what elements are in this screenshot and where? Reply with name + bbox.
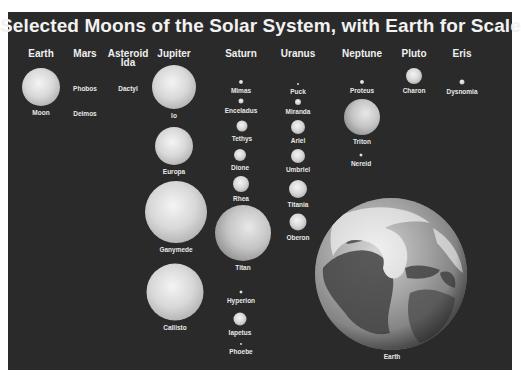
moon-mimas xyxy=(239,80,243,84)
moon-tethys xyxy=(237,121,248,132)
moon-titan xyxy=(215,205,271,261)
moon-puck xyxy=(297,83,299,85)
moon-label-triton: Triton xyxy=(353,138,371,145)
moon-label-phobos: Phobos xyxy=(73,85,97,92)
moon-label-tethys: Tethys xyxy=(232,135,252,142)
planet-header-earth: Earth xyxy=(28,49,54,59)
moon-label-mimas: Mimas xyxy=(231,87,251,94)
moon-dione xyxy=(234,149,246,161)
moon-label-titan: Titan xyxy=(235,264,250,271)
moon-label-proteus: Proteus xyxy=(350,87,374,94)
moon-europa xyxy=(155,127,193,165)
moon-dysnomia xyxy=(460,80,465,85)
earth-label: Earth xyxy=(384,353,401,360)
moon-iapetus xyxy=(234,313,247,326)
moon-triton xyxy=(344,99,380,135)
moon-label-rhea: Rhea xyxy=(233,195,249,202)
moon-label-ariel: Ariel xyxy=(291,137,305,144)
moon-phoebe xyxy=(240,343,242,345)
moon-label-callisto: Callisto xyxy=(163,324,186,331)
planet-header-neptune: Neptune xyxy=(342,49,382,59)
moon-label-iapetus: Iapetus xyxy=(229,329,252,336)
moon-oberon xyxy=(290,214,307,231)
earth-surface-icon xyxy=(315,198,467,350)
moon-label-dione: Dione xyxy=(231,164,249,171)
moon-titania xyxy=(289,180,307,198)
planet-header-jupiter: Jupiter xyxy=(157,49,190,59)
moon-label-dysnomia: Dysnomia xyxy=(446,88,477,95)
moon-label-oberon: Oberon xyxy=(286,234,309,241)
moon-io xyxy=(152,65,196,109)
moon-label-hyperion: Hyperion xyxy=(227,297,255,304)
moon-label-enceladus: Enceladus xyxy=(225,107,258,114)
planet-header-pluto: Pluto xyxy=(402,49,427,59)
moon-rhea xyxy=(233,176,249,192)
moon-callisto xyxy=(147,264,204,321)
moon-miranda xyxy=(295,99,301,105)
moon-ariel xyxy=(291,120,305,134)
planet-header-uranus: Uranus xyxy=(281,49,315,59)
moon-moon xyxy=(22,68,60,106)
moon-label-umbriel: Umbriel xyxy=(286,166,310,173)
moon-label-titania: Titania xyxy=(288,201,309,208)
planet-header-mars: Mars xyxy=(73,49,96,59)
planet-header-saturn: Saturn xyxy=(225,49,257,59)
planet-header-eris: Eris xyxy=(453,49,472,59)
moon-hyperion xyxy=(240,291,243,294)
moon-label-miranda: Miranda xyxy=(286,108,311,115)
moon-label-dactyl: Dactyl xyxy=(118,85,138,92)
moon-umbriel xyxy=(291,149,305,163)
moon-label-phoebe: Phoebe xyxy=(229,348,252,355)
moon-label-charon: Charon xyxy=(403,87,426,94)
figure-title: Selected Moons of the Solar System, with… xyxy=(0,15,521,37)
moon-label-europa: Europa xyxy=(163,168,185,175)
moon-label-moon: Moon xyxy=(32,109,49,116)
moon-proteus xyxy=(360,80,364,84)
moon-label-nereid: Nereid xyxy=(351,160,371,167)
moon-nereid xyxy=(360,154,363,157)
moon-enceladus xyxy=(239,99,244,104)
moon-ganymede xyxy=(145,181,207,243)
moon-label-deimos: Deimos xyxy=(73,110,96,117)
moon-label-io: Io xyxy=(171,112,177,119)
earth-globe xyxy=(315,198,467,350)
moon-label-ganymede: Ganymede xyxy=(159,246,192,253)
moon-label-puck: Puck xyxy=(290,88,306,95)
planet-header-asteroid-ida: Asteroid Ida xyxy=(107,49,149,67)
moon-charon xyxy=(406,68,422,84)
